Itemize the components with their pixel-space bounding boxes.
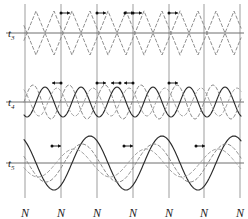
panel-label-t3: t3 (8, 28, 15, 42)
marker-arrow-head (139, 11, 142, 15)
marker-t4-2 (111, 81, 122, 85)
panel-label-t5-sub: 5 (11, 164, 15, 172)
marker-arrow-head (52, 81, 55, 85)
x-tick-label-4: N (165, 207, 173, 219)
panel-label-t4: t4 (8, 97, 15, 111)
marker-arrow-head (124, 81, 127, 85)
marker-t4-4 (168, 81, 179, 85)
marker-arrow-head (67, 11, 70, 15)
marker-arrow-head (111, 81, 114, 85)
marker-t3-0 (60, 11, 71, 15)
panel-label-t5: t5 (8, 158, 15, 172)
x-tick-label-5: N (200, 207, 208, 219)
panel-label-t3-sub: 3 (11, 34, 15, 42)
marker-t3-1 (96, 11, 107, 15)
x-tick-label-3: N (129, 207, 137, 219)
marker-t4-3 (124, 81, 135, 85)
marker-arrow-head (175, 11, 178, 15)
marker-arrow-head (175, 81, 178, 85)
plot-canvas (0, 0, 248, 219)
marker-arrow-head (103, 11, 106, 15)
waveform-figure: t3 t4 t5 NNNNNNN (0, 0, 248, 219)
x-tick-label-1: N (57, 207, 65, 219)
marker-t4-0 (52, 81, 63, 85)
marker-t4-1 (96, 81, 107, 85)
x-tick-label-2: N (93, 207, 101, 219)
x-tick-label-6: N (236, 207, 244, 219)
x-tick-label-0: N (21, 207, 29, 219)
marker-arrow-head (103, 81, 106, 85)
marker-t3-4 (168, 11, 179, 15)
panel-label-t4-sub: 4 (11, 103, 15, 111)
marker-t3-3 (132, 11, 143, 15)
marker-t5-1 (123, 144, 134, 148)
marker-t5-0 (51, 144, 62, 148)
